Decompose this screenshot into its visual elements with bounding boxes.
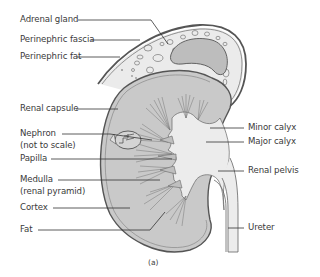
label-minor-calyx: Minor calyx — [248, 122, 296, 133]
label-nephron: Nephron — [20, 128, 56, 139]
label-nephron-note: (not to scale) — [20, 140, 76, 151]
label-perinephric-fat: Perinephric fat — [20, 51, 81, 62]
nephron-inset — [115, 131, 141, 149]
ureter-shape — [222, 158, 238, 252]
label-renal-pelvis: Renal pelvis — [248, 165, 299, 176]
label-perinephric-fascia: Perinephric fascia — [20, 34, 94, 45]
label-medulla: Medulla — [20, 174, 53, 185]
label-medulla-note: (renal pyramid) — [20, 186, 85, 197]
label-renal-capsule: Renal capsule — [20, 103, 78, 114]
label-cortex: Cortex — [20, 202, 48, 213]
label-ureter: Ureter — [248, 222, 275, 233]
figure-caption: (a) — [148, 258, 158, 267]
label-papilla: Papilla — [20, 153, 47, 164]
label-fat: Fat — [20, 224, 33, 235]
label-major-calyx: Major calyx — [248, 136, 296, 147]
label-adrenal-gland: Adrenal gland — [20, 14, 78, 25]
